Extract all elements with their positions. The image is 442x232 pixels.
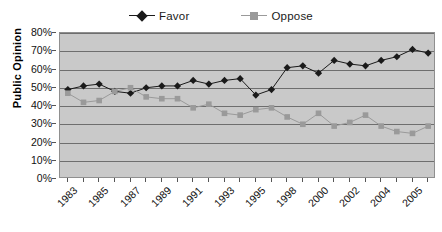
data-point-favor-2003 [378, 57, 385, 64]
data-point-oppose-1984 [81, 100, 87, 106]
x-tick-label-2005: 2005 [391, 184, 424, 217]
series-line-favor [68, 49, 428, 95]
y-axis-ticks: 0%10%20%30%40%50%60%70%80% [0, 32, 52, 178]
x-tick-mark-1998 [302, 178, 303, 182]
x-tick-label-1991: 1991 [172, 184, 205, 217]
x-tick-label-1985: 1985 [78, 184, 111, 217]
data-point-oppose-2000 [331, 123, 337, 129]
x-tick-mark-1999 [318, 178, 319, 182]
x-tick-label-1987: 1987 [109, 184, 142, 217]
y-tick-mark-50 [52, 87, 56, 88]
data-point-favor-1987 [127, 90, 134, 97]
y-tick-mark-30 [52, 123, 56, 124]
x-tick-label-1998: 1998 [266, 184, 299, 217]
data-point-favor-1988 [143, 84, 150, 91]
x-tick-mark-1987 [130, 178, 131, 182]
y-tick-label-30: 30% [6, 117, 52, 129]
y-tick-label-0: 0% [6, 172, 52, 184]
data-point-oppose-2004 [394, 129, 400, 135]
data-point-favor-1990 [174, 82, 181, 89]
y-tick-mark-40 [52, 105, 56, 106]
x-tick-mark-1988 [145, 178, 146, 182]
x-tick-label-1983: 1983 [47, 184, 80, 217]
legend-key-oppose [241, 10, 267, 22]
data-point-favor-1997 [284, 64, 291, 71]
data-point-oppose-1995 [253, 107, 259, 113]
chart-legend: Favor Oppose [0, 6, 442, 26]
x-tick-mark-2004 [396, 178, 397, 182]
data-point-oppose-1991 [190, 105, 196, 111]
data-point-oppose-2005 [410, 131, 416, 137]
x-tick-mark-1997 [286, 178, 287, 182]
y-tick-mark-60 [52, 69, 56, 70]
data-point-oppose-2006 [425, 123, 431, 129]
data-point-oppose-1986 [112, 89, 118, 95]
x-tick-mark-2001 [349, 178, 350, 182]
x-tick-label-2000: 2000 [297, 184, 330, 217]
y-tick-mark-70 [52, 50, 56, 51]
x-tick-mark-1994 [239, 178, 240, 182]
data-point-oppose-1993 [222, 111, 228, 117]
y-tick-label-80: 80% [6, 26, 52, 38]
data-point-oppose-1994 [237, 112, 243, 118]
data-point-oppose-2001 [347, 120, 353, 126]
data-point-oppose-1987 [128, 85, 134, 91]
x-tick-mark-2000 [333, 178, 334, 182]
y-tick-label-10: 10% [6, 154, 52, 166]
x-tick-mark-1992 [208, 178, 209, 182]
y-tick-mark-80 [52, 32, 56, 33]
x-tick-mark-1986 [114, 178, 115, 182]
x-axis-ticks: 1983198519871989199119931995199820002002… [59, 178, 435, 232]
data-point-oppose-1990 [175, 96, 181, 102]
data-point-favor-1985 [96, 81, 103, 88]
data-point-favor-1984 [80, 82, 87, 89]
square-marker-icon [250, 12, 258, 20]
data-point-oppose-1996 [269, 105, 275, 111]
x-tick-mark-1996 [271, 178, 272, 182]
y-tick-label-70: 70% [6, 44, 52, 56]
legend-entry-favor: Favor [129, 10, 189, 22]
x-tick-mark-1993 [224, 178, 225, 182]
data-point-oppose-2002 [363, 112, 369, 118]
data-point-oppose-1985 [96, 98, 102, 104]
legend-key-favor [129, 10, 155, 22]
data-point-favor-2002 [362, 62, 369, 69]
legend-label-favor: Favor [159, 10, 189, 22]
y-tick-label-40: 40% [6, 99, 52, 111]
series-line-oppose [68, 88, 428, 134]
series-oppose [65, 85, 431, 136]
data-point-favor-1989 [158, 82, 165, 89]
legend-entry-oppose: Oppose [241, 10, 312, 22]
y-tick-mark-10 [52, 160, 56, 161]
data-point-oppose-1983 [65, 90, 71, 96]
data-point-oppose-1998 [300, 121, 306, 127]
x-tick-label-2004: 2004 [360, 184, 393, 217]
y-tick-label-20: 20% [6, 136, 52, 148]
y-tick-label-50: 50% [6, 81, 52, 93]
chart-container: Favor Oppose Public Opinion 0%10%20%30%4… [0, 0, 442, 232]
data-point-favor-2005 [409, 46, 416, 53]
x-tick-mark-2006 [427, 178, 428, 182]
y-tick-label-60: 60% [6, 63, 52, 75]
data-point-favor-1991 [190, 77, 197, 84]
data-point-oppose-1999 [316, 111, 322, 117]
data-point-oppose-1997 [284, 114, 290, 120]
plot-area [59, 32, 435, 178]
x-tick-mark-1995 [255, 178, 256, 182]
data-point-oppose-1988 [143, 94, 149, 100]
data-point-favor-2004 [393, 53, 400, 60]
data-point-favor-2006 [425, 49, 432, 56]
legend-label-oppose: Oppose [271, 10, 312, 22]
y-tick-mark-20 [52, 142, 56, 143]
data-point-favor-1996 [268, 86, 275, 93]
x-tick-mark-1989 [161, 178, 162, 182]
y-tick-mark-0 [52, 178, 56, 179]
x-tick-mark-2005 [412, 178, 413, 182]
x-tick-mark-1985 [98, 178, 99, 182]
x-tick-label-1995: 1995 [235, 184, 268, 217]
x-tick-mark-2002 [365, 178, 366, 182]
x-tick-label-2002: 2002 [329, 184, 362, 217]
data-point-favor-2001 [346, 60, 353, 67]
x-tick-mark-1990 [177, 178, 178, 182]
series-layer [60, 33, 436, 179]
